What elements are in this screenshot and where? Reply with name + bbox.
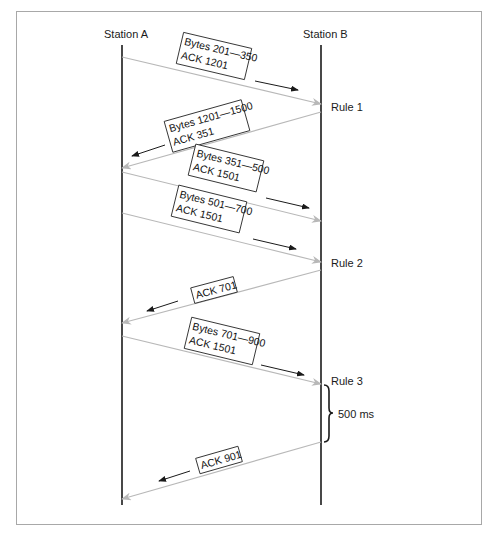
message-label-box: Bytes 501—700ACK 1501 [171,185,254,235]
rule-1-label: Rule 1 [331,101,363,113]
station-b-label: Station B [303,28,348,40]
direction-arrow-icon [266,198,309,208]
direction-arrow-icon [159,471,190,481]
timer-brace-icon [324,385,333,442]
direction-arrow-icon [253,239,296,249]
rule-2-label: Rule 2 [331,257,363,269]
direction-arrow-icon [261,365,304,375]
message-6: Bytes 701—900ACK 1501 [122,317,321,384]
station-a-label: Station A [104,28,149,40]
message-7: ACK 901 [122,442,321,499]
direction-arrow-icon [132,145,165,156]
message-1: Bytes 201—350ACK 1201 [122,32,321,104]
timer-label: 500 ms [338,408,375,420]
message-label-box: Bytes 1201—1500ACK 351 [164,97,259,152]
messages-group: Bytes 201—350ACK 1201Bytes 1201—1500ACK … [122,32,321,499]
message-label-box: Bytes 701—900ACK 1501 [184,317,267,366]
message-5: ACK 701 [122,270,321,323]
rule-3-label: Rule 3 [331,375,363,387]
tcp-sequence-diagram: Station A Station B Bytes 201—350ACK 120… [0,0,493,537]
message-4: Bytes 501—700ACK 1501 [122,185,321,262]
direction-arrow-icon [255,81,298,90]
message-label-box: ACK 901 [196,446,244,474]
message-label-box: ACK 701 [191,276,239,303]
message-label-box: Bytes 351—500ACK 1501 [188,144,271,194]
message-label-box: Bytes 201—350ACK 1201 [176,32,259,81]
